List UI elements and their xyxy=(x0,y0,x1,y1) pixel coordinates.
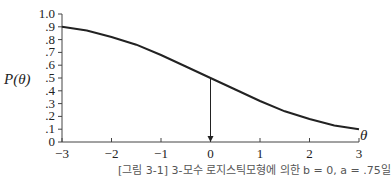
x-tick-label: −3 xyxy=(55,146,69,161)
y-tick-label: 0 xyxy=(49,134,56,149)
y-tick-label: .5 xyxy=(45,70,55,85)
figure-caption: [그림 3-1] 3-모수 로지스틱모형에 의한 b = 0, a = .75일 xyxy=(118,161,391,177)
x-tick-label: −2 xyxy=(105,146,119,161)
y-tick-label: .6 xyxy=(45,57,55,72)
y-tick-label: 1.0 xyxy=(39,6,55,21)
x-tick-label: −1 xyxy=(154,146,168,161)
y-axis-title: P(θ) xyxy=(3,71,31,88)
x-tick-label: 2 xyxy=(306,146,313,161)
x-axis: −3−2−10123 xyxy=(55,138,362,161)
y-axis: 0.1.2.3.4.5.6.7.8.91.0 xyxy=(39,6,62,149)
arrow-annotation xyxy=(208,78,214,142)
y-tick-label: .8 xyxy=(45,32,55,47)
x-tick-label: 3 xyxy=(356,146,363,161)
x-tick-label: 1 xyxy=(257,146,264,161)
y-tick-label: .2 xyxy=(45,108,55,123)
y-tick-label: .1 xyxy=(45,121,55,136)
y-tick-label: .3 xyxy=(45,96,55,111)
y-tick-label: .9 xyxy=(45,19,55,34)
x-axis-title: θ xyxy=(360,127,368,143)
x-tick-label: 0 xyxy=(207,146,214,161)
y-tick-label: .7 xyxy=(45,44,55,59)
y-tick-label: .4 xyxy=(45,83,55,98)
